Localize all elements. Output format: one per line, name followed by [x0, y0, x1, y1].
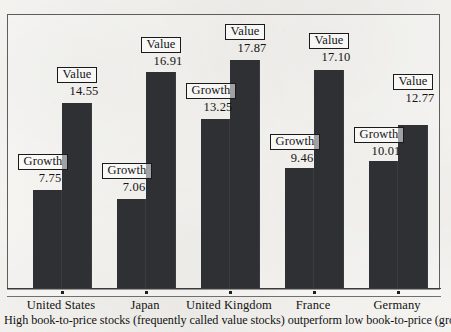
- bar-japan-growth: [117, 199, 146, 289]
- annotation-france-growth: Growth 9.46: [258, 132, 332, 165]
- chart-page: Growth 7.75 Value 14.55 Growth 7.06 Valu…: [0, 0, 451, 332]
- annotation-value: 13.25: [188, 101, 248, 114]
- annotation-label-box: Value: [57, 67, 98, 83]
- annotation-germany-value: Value 12.77: [376, 72, 450, 105]
- annotation-label-box: Value: [141, 37, 182, 53]
- annotation-label-box: Value: [309, 33, 350, 49]
- bar-france-value: [314, 70, 344, 289]
- annotation-label-box: Growth: [18, 154, 69, 170]
- axis-tick-germany: [397, 291, 400, 294]
- bar-united-states-growth: [33, 190, 62, 289]
- axis-label-germany: Germany: [347, 298, 447, 313]
- annotation-value: 16.91: [138, 55, 198, 68]
- annotation-value: 7.06: [104, 181, 164, 194]
- annotation-value: 9.46: [272, 152, 332, 165]
- annotation-label-box: Growth: [102, 163, 153, 179]
- bar-united-kingdom-growth: [201, 119, 230, 289]
- bar-united-states-value: [62, 103, 92, 289]
- annotation-value: 14.55: [54, 85, 114, 98]
- annotation-label-box: Growth: [186, 83, 237, 99]
- x-axis: [7, 288, 441, 297]
- annotation-japan-growth: Growth 7.06: [90, 161, 164, 194]
- annotation-label-box: Growth: [354, 127, 405, 143]
- annotation-value: 17.10: [306, 51, 366, 64]
- annotation-label-box: Growth: [270, 134, 321, 150]
- annotation-label-box: Value: [393, 74, 434, 90]
- annotation-united-kingdom-value: Value 17.87: [208, 22, 282, 55]
- bar-france-growth: [285, 168, 314, 289]
- annotation-france-value: Value 17.10: [292, 31, 366, 64]
- axis-tick-france: [313, 291, 316, 294]
- annotation-japan-value: Value 16.91: [124, 35, 198, 68]
- annotation-value: 10.01: [356, 145, 416, 158]
- axis-tick-united-kingdom: [229, 291, 232, 294]
- annotation-united-states-growth: Growth 7.75: [6, 152, 80, 185]
- annotation-label-box: Value: [225, 24, 266, 40]
- annotation-germany-growth: Growth 10.01: [342, 125, 416, 158]
- chart-caption: High book-to-price stocks (frequently ca…: [4, 313, 449, 328]
- bar-germany-growth: [369, 161, 398, 289]
- annotation-united-states-value: Value 14.55: [40, 65, 114, 98]
- axis-tick-japan: [145, 291, 148, 294]
- annotation-value: 17.87: [222, 42, 282, 55]
- annotation-value: 12.77: [390, 92, 450, 105]
- axis-tick-united-states: [61, 291, 64, 294]
- annotation-united-kingdom-growth: Growth 13.25: [174, 81, 248, 114]
- annotation-value: 7.75: [20, 172, 80, 185]
